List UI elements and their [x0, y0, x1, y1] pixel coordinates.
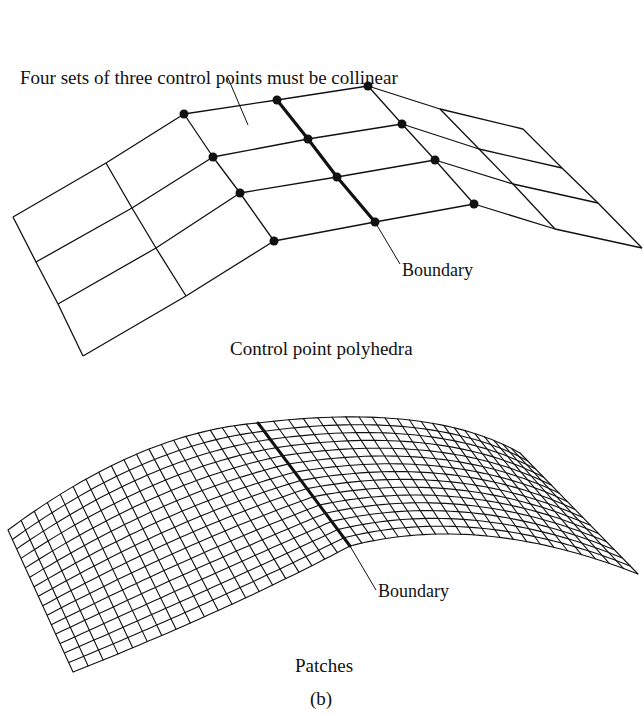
grid-column-line	[13, 217, 83, 356]
patch-surface-mesh	[8, 417, 638, 672]
control-point-dot	[470, 200, 479, 209]
grid-row-line	[13, 86, 523, 217]
right-patch-cross-line	[385, 418, 461, 534]
left-patch-cross-line	[124, 460, 204, 617]
bottom-boundary-leader-line	[350, 546, 376, 590]
boundary-edge	[277, 100, 375, 222]
grid-column-line	[368, 86, 474, 204]
control-point-dot	[398, 120, 407, 129]
left-patch-arch-line	[64, 530, 337, 654]
grid-column-line	[184, 114, 274, 241]
top-boundary-line	[277, 100, 375, 222]
left-patch-arch-line	[60, 521, 332, 643]
grid-column-line	[106, 163, 186, 296]
top-boundary-leader-line	[375, 222, 400, 264]
right-patch-arch-line	[344, 526, 630, 566]
control-point-dot	[236, 189, 245, 198]
right-patch-arch-line	[350, 534, 638, 574]
bottom-panel-caption: Patches	[295, 655, 353, 676]
control-point-dot	[180, 110, 189, 119]
left-patch-arch-line	[56, 513, 326, 634]
bottom-boundary-label: Boundary	[378, 581, 449, 601]
left-patch-cross-line	[246, 424, 337, 552]
left-patch-cross-line	[8, 530, 73, 672]
control-point-polyhedra	[13, 86, 642, 356]
collinear-control-points	[180, 82, 479, 246]
left-patch-cross-line	[111, 466, 190, 623]
left-patch-cross-line	[47, 503, 118, 654]
diagram-svg: Four sets of three control points must b…	[0, 0, 643, 715]
left-patch-cross-line	[86, 479, 162, 635]
grid-column-line	[523, 129, 642, 248]
right-patch-cross-line	[494, 440, 596, 558]
left-patch-arch-line	[21, 448, 276, 559]
control-point-dot	[304, 135, 313, 144]
control-point-dot	[273, 96, 282, 105]
top-panel-caption: Control point polyhedra	[230, 338, 413, 359]
control-point-dot	[209, 153, 218, 162]
grid-row-line	[83, 204, 642, 356]
figure-label: (b)	[310, 688, 332, 710]
collinear-annotation: Four sets of three control points must b…	[20, 67, 398, 88]
right-patch-cross-line	[421, 422, 500, 538]
left-patch-cross-line	[60, 494, 132, 647]
left-patch-cross-line	[34, 511, 103, 660]
left-patch-cross-line	[21, 520, 88, 666]
left-patch-cross-line	[222, 428, 312, 566]
control-point-dot	[270, 237, 279, 246]
control-point-dot	[333, 173, 342, 182]
top-boundary-label: Boundary	[402, 260, 473, 280]
control-point-dot	[431, 156, 440, 165]
left-patch-arch-line	[17, 439, 271, 549]
right-patch-cross-line	[503, 444, 610, 563]
grid-row-line	[36, 124, 562, 262]
figure-canvas: Four sets of three control points must b…	[0, 0, 643, 715]
left-patch-cross-line	[99, 472, 176, 629]
grid-row-line	[58, 160, 598, 304]
